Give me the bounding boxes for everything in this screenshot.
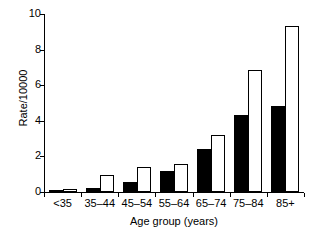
bar-light	[63, 189, 77, 192]
bar-light	[137, 167, 151, 192]
x-tick-label: 65–74	[196, 196, 227, 211]
bar-light	[174, 164, 188, 192]
x-axis-tick-labels: <3535–4445–5455–6465–7475–8485+	[44, 196, 304, 212]
y-tick-label: 2	[35, 149, 41, 162]
y-tick-label: 10	[29, 7, 41, 20]
x-tick-label: 55–64	[159, 196, 190, 211]
y-tick-label: 6	[35, 78, 41, 91]
bar-dark	[160, 171, 174, 192]
bar-light	[211, 135, 225, 192]
x-axis-line	[44, 192, 304, 193]
bar-light	[100, 175, 114, 192]
x-tick-label: 45–54	[122, 196, 153, 211]
x-axis-title: Age group (years)	[44, 214, 304, 228]
bar-light	[285, 26, 299, 192]
bar-chart: Rate/10000 0246810 <3535–4445–5455–6465–…	[0, 0, 314, 236]
bar-dark	[49, 190, 63, 192]
bar-dark	[197, 149, 211, 192]
x-tick-label: 85+	[276, 196, 295, 211]
bar-dark	[123, 182, 137, 192]
x-tick-mark	[304, 193, 305, 197]
x-tick-label: 75–84	[233, 196, 264, 211]
y-tick-label: 8	[35, 43, 41, 56]
x-tick-label: 35–44	[84, 196, 115, 211]
bar-light	[248, 70, 262, 192]
x-tick-label: <35	[53, 196, 72, 211]
bar-dark	[271, 106, 285, 192]
y-axis-line	[44, 14, 45, 193]
bar-dark	[86, 188, 100, 192]
y-axis-title: Rate/10000	[16, 0, 30, 196]
plot-area: 0246810	[44, 14, 304, 193]
bar-dark	[234, 115, 248, 192]
y-tick-label: 0	[35, 185, 41, 198]
y-tick-label: 4	[35, 114, 41, 127]
